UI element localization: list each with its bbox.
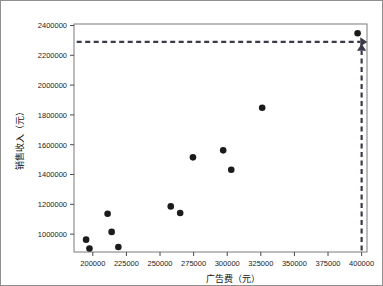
annotation-arrows (77, 37, 368, 250)
arrow-head-icon (357, 44, 366, 51)
data-point (190, 154, 197, 161)
chart-figure: 1000000120000014000001600000180000020000… (0, 0, 383, 286)
vertical-prediction-arrow (357, 44, 366, 251)
y-axis-ticks: 1000000120000014000001600000180000020000… (38, 21, 74, 239)
data-point (228, 166, 235, 173)
data-point (115, 244, 122, 251)
y-axis-title: 销售收入（元） (14, 107, 25, 170)
data-point (108, 229, 115, 236)
x-tick-label: 300000 (215, 259, 240, 268)
data-point (220, 147, 227, 154)
plot-frame (74, 24, 367, 252)
x-tick-label: 200000 (80, 259, 105, 268)
y-tick-label: 2400000 (38, 21, 67, 30)
y-tick-label: 1200000 (38, 200, 67, 209)
x-tick-label: 375000 (316, 259, 341, 268)
data-point (104, 210, 111, 217)
x-tick-label: 250000 (148, 259, 173, 268)
x-tick-label: 400000 (349, 259, 374, 268)
y-tick-label: 1400000 (38, 170, 67, 179)
x-axis-ticks: 2000002250002500002750003000003250003500… (80, 252, 374, 268)
y-tick-label: 2000000 (38, 81, 67, 90)
y-tick-label: 1000000 (38, 230, 67, 239)
x-axis-title: 广告费（元） (206, 273, 260, 284)
data-point-series (83, 30, 361, 252)
data-point (259, 104, 266, 111)
y-tick-label: 2200000 (38, 51, 67, 60)
data-point (177, 210, 184, 217)
data-point (83, 236, 90, 243)
data-point (167, 203, 174, 210)
x-tick-label: 225000 (114, 259, 139, 268)
x-tick-label: 325000 (248, 259, 273, 268)
data-point (86, 245, 93, 252)
x-tick-label: 350000 (282, 259, 307, 268)
x-tick-label: 275000 (181, 259, 206, 268)
y-tick-label: 1600000 (38, 141, 67, 150)
y-tick-label: 1800000 (38, 111, 67, 120)
horizontal-prediction-arrow (77, 37, 368, 46)
data-point (354, 30, 361, 37)
scatter-plot: 1000000120000014000001600000180000020000… (1, 1, 383, 286)
